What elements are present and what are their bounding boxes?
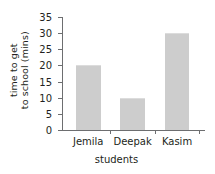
x-axis-category-label: Jemila [73, 136, 104, 147]
y-axis-tick-label: 30 [39, 28, 52, 39]
y-axis-tick: 10 [58, 98, 62, 99]
x-axis-tick [110, 130, 111, 134]
x-axis-tick [155, 130, 156, 134]
y-axis-line [62, 17, 63, 131]
bar [120, 98, 145, 130]
y-axis-title-line-1: time to get [8, 31, 19, 109]
plot-area: 05101520253035 [62, 17, 205, 131]
bar [76, 65, 101, 130]
x-axis-tick [199, 130, 200, 134]
y-axis-tick-label: 25 [39, 44, 52, 55]
x-axis-line [62, 130, 205, 131]
y-axis-tick: 20 [58, 65, 62, 66]
x-axis-title-text: students [95, 154, 138, 165]
x-axis-title: students [0, 154, 215, 165]
y-axis-tick: 15 [58, 82, 62, 83]
bar-chart: time to get to school (mins) 05101520253… [0, 0, 215, 174]
y-axis-tick: 30 [58, 33, 62, 34]
x-axis-category-label: Deepak [113, 136, 151, 147]
y-axis-tick: 25 [58, 49, 62, 50]
y-axis-tick-label: 35 [39, 12, 52, 23]
y-axis-title-line-2: to school (mins) [19, 31, 30, 109]
y-axis-tick: 35 [58, 17, 62, 18]
y-axis-tick: 5 [58, 114, 62, 115]
y-axis-title: time to get to school (mins) [0, 0, 38, 140]
y-axis-tick-label: 0 [46, 125, 52, 136]
y-axis-tick-label: 10 [39, 92, 52, 103]
y-axis-tick-label: 15 [39, 76, 52, 87]
y-axis-tick-label: 5 [46, 108, 52, 119]
bar [165, 33, 190, 130]
x-axis-category-label: Kasim [162, 136, 192, 147]
y-axis-tick-label: 20 [39, 60, 52, 71]
y-axis-tick: 0 [58, 130, 62, 131]
